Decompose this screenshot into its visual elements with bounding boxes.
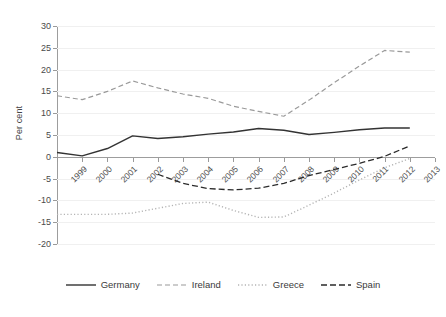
legend-label: Spain: [356, 280, 380, 290]
y-tick-label: -15: [38, 217, 51, 227]
y-tick-mark: [53, 244, 57, 245]
legend-item-spain[interactable]: Spain: [321, 280, 380, 290]
y-tick-label: 25: [41, 43, 51, 53]
y-tick-label: -5: [43, 174, 51, 184]
chart-legend: GermanyIrelandGreeceSpain: [0, 280, 446, 290]
x-tick-mark: [435, 158, 436, 162]
legend-item-ireland[interactable]: Ireland: [157, 280, 221, 290]
y-tick-label: 5: [46, 130, 51, 140]
y-tick-label: 20: [41, 65, 51, 75]
y-tick-label: -10: [38, 195, 51, 205]
series-lines: [57, 26, 435, 244]
legend-swatch-germany: [66, 281, 96, 289]
y-tick-label: 0: [46, 152, 51, 162]
legend-swatch-ireland: [157, 281, 187, 289]
legend-item-greece[interactable]: Greece: [238, 280, 304, 290]
y-tick-label: 10: [41, 108, 51, 118]
legend-label: Germany: [101, 280, 140, 290]
series-line-germany: [57, 128, 410, 156]
series-line-greece: [57, 159, 410, 218]
legend-swatch-greece: [238, 281, 268, 289]
legend-label: Greece: [273, 280, 304, 290]
legend-item-germany[interactable]: Germany: [66, 280, 140, 290]
y-axis-title: Per cent: [14, 88, 24, 158]
y-tick-label: 30: [41, 21, 51, 31]
gridline: [57, 244, 435, 245]
y-tick-label: -20: [38, 239, 51, 249]
chart-figure: Per cent 302520151050-5-10-15-20 1999200…: [0, 0, 446, 317]
legend-swatch-spain: [321, 281, 351, 289]
series-line-ireland: [57, 50, 410, 116]
plot-area: 302520151050-5-10-15-20 1999200020012002…: [57, 26, 435, 244]
series-line-spain: [158, 146, 410, 190]
y-tick-label: 15: [41, 86, 51, 96]
legend-label: Ireland: [192, 280, 221, 290]
